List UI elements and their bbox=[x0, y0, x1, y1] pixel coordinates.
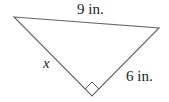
triangle bbox=[14, 17, 159, 96]
triangle-diagram: 9 in. x 6 in. bbox=[0, 0, 169, 102]
right-leg-label: 6 in. bbox=[126, 68, 153, 84]
hypotenuse-label: 9 in. bbox=[77, 1, 104, 17]
right-angle-marker bbox=[85, 82, 99, 89]
left-leg-label: x bbox=[42, 55, 50, 71]
